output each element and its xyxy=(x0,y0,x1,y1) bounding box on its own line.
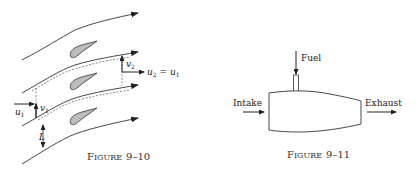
figure-9-11-caption: FIGURE9–11 xyxy=(287,149,350,160)
L-label: L xyxy=(38,132,45,142)
exhaust-label: Exhaust xyxy=(365,98,402,108)
u2-equation: u2 = u1 xyxy=(147,67,180,78)
figure-9-11: Fuel Intake Exhaust FIGURE9–11 xyxy=(233,51,402,160)
fuel-injector xyxy=(294,75,299,92)
u1-label: u1 xyxy=(15,107,25,118)
figure-9-10-caption: FIGURE9–10 xyxy=(87,151,150,162)
figures-canvas: u1 v1 L v2 u2 = u1 FIGURE9–10 Fuel Intak… xyxy=(0,0,418,170)
intake-label: Intake xyxy=(233,98,262,108)
v1-label: v1 xyxy=(40,103,49,114)
engine-body xyxy=(269,91,361,132)
airfoil-bottom xyxy=(70,108,97,125)
figure-9-10: u1 v1 L v2 u2 = u1 FIGURE9–10 xyxy=(14,13,180,164)
v2-label: v2 xyxy=(126,59,135,70)
streamline-2-dashed xyxy=(32,57,130,91)
fuel-label: Fuel xyxy=(301,53,321,63)
airfoil-top xyxy=(70,41,97,58)
airfoil-middle xyxy=(70,73,97,90)
